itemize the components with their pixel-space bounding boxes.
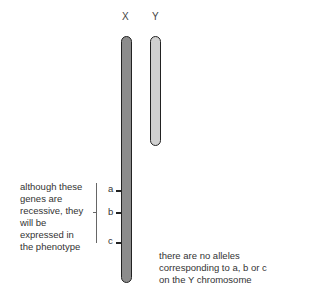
y-chromosome [150, 36, 161, 146]
x-chromosome-label: X [122, 11, 129, 22]
left-note-line: although these [20, 181, 96, 193]
left-note-line: genes are [20, 193, 96, 205]
left-note-line: recessive, they [20, 205, 96, 217]
left-note-line: the phenotype [20, 241, 96, 253]
left-note-line: will be [20, 217, 96, 229]
left-note-line: expressed in [20, 229, 96, 241]
brace-icon [96, 183, 97, 243]
y-chromosome-label: Y [152, 11, 159, 22]
right-note-line: corresponding to a, b or c [159, 262, 289, 274]
right-annotation: there are no alleles corresponding to a,… [159, 250, 289, 286]
marker-a-tick [116, 190, 121, 192]
x-chromosome [121, 36, 132, 283]
left-annotation: although these genes are recessive, they… [20, 181, 96, 253]
marker-c-tick [116, 242, 121, 244]
right-note-line: on the Y chromosome [159, 274, 289, 286]
right-note-line: there are no alleles [159, 250, 289, 262]
marker-b-tick [116, 212, 121, 214]
marker-c-label: c [108, 235, 113, 246]
marker-a-label: a [108, 183, 113, 194]
marker-b-label: b [108, 206, 113, 217]
